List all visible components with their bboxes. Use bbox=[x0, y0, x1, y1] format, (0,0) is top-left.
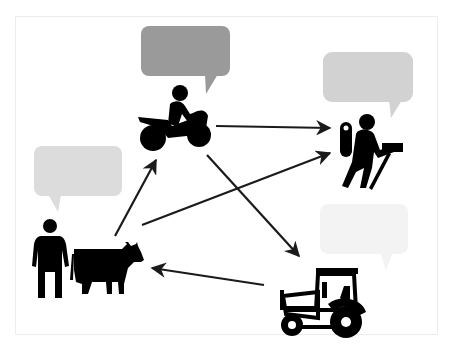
hiker-with-backpack-icon bbox=[340, 114, 403, 190]
speech-bubble-hiker bbox=[323, 52, 413, 118]
arrow-rider-to-hiker bbox=[216, 126, 330, 128]
farmer-icon bbox=[32, 219, 69, 298]
motorcycle-rider-icon bbox=[138, 85, 211, 151]
tractor-icon bbox=[280, 268, 366, 338]
arrow-farmer-to-hiker bbox=[142, 153, 330, 225]
speech-bubble-tractor bbox=[320, 204, 408, 270]
speech-bubble-rider bbox=[141, 26, 230, 94]
arrows bbox=[115, 126, 330, 285]
diagram-canvas bbox=[0, 0, 452, 360]
cow-icon bbox=[70, 242, 144, 294]
speech-bubble-farmer bbox=[34, 146, 122, 212]
arrow-tractor-to-farmer bbox=[152, 268, 264, 285]
